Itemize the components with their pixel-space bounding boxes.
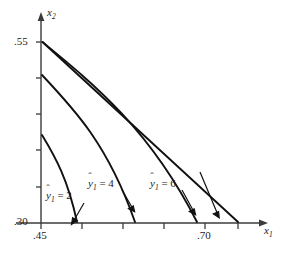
- leader-line-yhat1-6: [182, 190, 194, 212]
- curve-label-yhat1-6: ̂y1 = 6: [150, 178, 176, 192]
- y-axis-ticks: [36, 42, 41, 187]
- y-tick-label-top: .55: [14, 36, 28, 47]
- hat-accent-icon: ̂: [46, 184, 51, 194]
- y-axis-arrowhead: [38, 12, 45, 21]
- hat-accent-icon: ̂: [150, 172, 155, 182]
- curve-label-yhat1-4: ̂y1 = 4: [88, 178, 114, 192]
- leader-arrow-upper-boundary: [213, 212, 219, 218]
- yhat-symbol-4: ̂y: [88, 178, 93, 189]
- curve-label-yhat1-2: ̂y1 = 2: [46, 190, 72, 204]
- x-tick-label-left: .45: [33, 230, 47, 241]
- y-tick-label-bottom: .30: [14, 216, 28, 227]
- yhat-symbol-2: ̂y: [46, 190, 51, 201]
- chart-canvas: [0, 0, 282, 255]
- leader-line-upper-boundary: [200, 172, 218, 215]
- isoquant-contour-figure: x2 x1 .55 .30 .45 .70 ̂y1 = 2 ̂y1 = 4 ̂y…: [0, 0, 282, 255]
- y-axis-title: x2: [47, 7, 56, 21]
- x-tick-label-right: .70: [197, 230, 211, 241]
- curve-yhat1-2: [42, 135, 77, 222]
- leader-line-yhat1-4: [122, 190, 133, 209]
- hat-accent-icon: ̂: [88, 172, 93, 182]
- yhat-symbol-6: ̂y: [150, 178, 155, 189]
- x-axis-title: x1: [264, 225, 273, 239]
